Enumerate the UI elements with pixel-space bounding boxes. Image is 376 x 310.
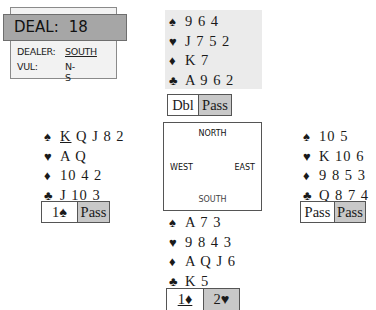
east-bid-1: Pass xyxy=(301,202,334,222)
north-spades: 9 6 4 xyxy=(185,13,219,29)
north-hearts: J 7 5 2 xyxy=(185,33,230,49)
compass-west: WEST xyxy=(170,163,193,172)
heart-icon: ♥ xyxy=(169,33,185,52)
south-diamonds: A Q J 6 xyxy=(185,253,236,269)
dealer-value: SOUTH xyxy=(65,46,97,57)
dealer-label: DEALER: xyxy=(17,46,56,57)
south-clubs: K 5 xyxy=(185,273,209,289)
east-diamonds: 9 8 5 3 xyxy=(319,167,366,183)
north-clubs: A 9 6 2 xyxy=(185,72,234,88)
spade-icon: ♠ xyxy=(169,214,185,233)
west-bid-box: 1♠ Pass xyxy=(41,201,110,223)
spade-icon: ♠ xyxy=(44,128,60,147)
north-bid-1: Dbl xyxy=(168,95,198,115)
north-bid-box: Dbl Pass xyxy=(167,94,232,116)
compass-north: NORTH xyxy=(164,129,261,138)
west-bid-1: 1♠ xyxy=(42,202,77,222)
south-bid-2: 2♥ xyxy=(203,289,239,310)
heart-icon: ♥ xyxy=(169,234,185,253)
east-hand: ♠10 5 ♥K 10 6 ♦9 8 5 3 ♣Q 8 7 4 xyxy=(303,127,369,205)
west-spades: Q J 8 2 xyxy=(76,128,125,144)
heart-icon: ♥ xyxy=(44,148,60,167)
deal-number: 18 xyxy=(69,18,88,36)
south-spades: A 7 3 xyxy=(185,214,221,230)
compass-table: NORTH WEST EAST SOUTH xyxy=(163,122,262,211)
compass-south: SOUTH xyxy=(164,195,261,204)
west-diamonds: 10 4 2 xyxy=(60,167,102,183)
west-hand: ♠K Q J 8 2 ♥A Q ♦10 4 2 ♣J 10 3 xyxy=(44,127,125,205)
east-hearts: K 10 6 xyxy=(319,148,364,164)
east-bid-box: Pass Pass xyxy=(300,201,366,223)
north-hand: ♠9 6 4 ♥J 7 5 2 ♦K 7 ♣A 9 6 2 xyxy=(169,12,234,90)
spade-icon: ♠ xyxy=(303,128,319,147)
deal-header: DEAL:18 xyxy=(3,14,127,41)
north-bid-2: Pass xyxy=(198,95,231,115)
south-hand: ♠A 7 3 ♥9 8 4 3 ♦A Q J 6 ♣K 5 xyxy=(169,213,236,291)
west-hearts: A Q xyxy=(60,148,87,164)
east-bid-2: Pass xyxy=(334,202,365,222)
west-spades-highlighted-card: K xyxy=(60,128,71,144)
south-bid-box: 1♦ 2♥ xyxy=(166,288,240,310)
south-bid-1: 1♦ xyxy=(167,289,203,310)
north-diamonds: K 7 xyxy=(185,52,209,68)
diamond-icon: ♦ xyxy=(169,253,185,272)
diamond-icon: ♦ xyxy=(303,167,319,186)
south-hearts: 9 8 4 3 xyxy=(185,234,232,250)
club-icon: ♣ xyxy=(169,72,185,91)
diamond-icon: ♦ xyxy=(169,52,185,71)
compass-east: EAST xyxy=(235,163,256,172)
diamond-icon: ♦ xyxy=(44,167,60,186)
vul-value: N-S xyxy=(65,61,75,83)
spade-icon: ♠ xyxy=(169,13,185,32)
south-bid-1-text: 1♦ xyxy=(178,291,193,307)
dealer-row: DEALER: SOUTH xyxy=(17,46,56,57)
east-spades: 10 5 xyxy=(319,128,348,144)
deal-label: DEAL: xyxy=(14,18,59,36)
heart-icon: ♥ xyxy=(303,148,319,167)
vul-label: VUL: xyxy=(17,61,38,72)
vul-row: VUL: N-S xyxy=(17,61,38,72)
west-bid-2: Pass xyxy=(77,202,109,222)
